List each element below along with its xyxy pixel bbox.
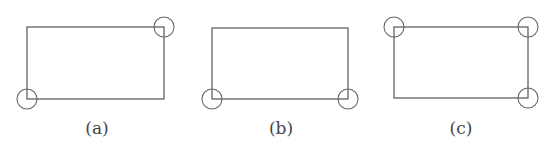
diagram-canvas: (a)(b)(c) bbox=[0, 0, 554, 152]
panel-a: (a) bbox=[17, 17, 174, 138]
rectangle bbox=[394, 27, 528, 98]
panel-b: (b) bbox=[202, 28, 358, 138]
panel-label: (a) bbox=[85, 118, 108, 138]
panel-c: (c) bbox=[384, 17, 538, 138]
panel-label: (b) bbox=[269, 118, 293, 138]
rectangle bbox=[27, 27, 164, 99]
rectangle bbox=[212, 28, 348, 99]
panel-label: (c) bbox=[450, 118, 473, 138]
